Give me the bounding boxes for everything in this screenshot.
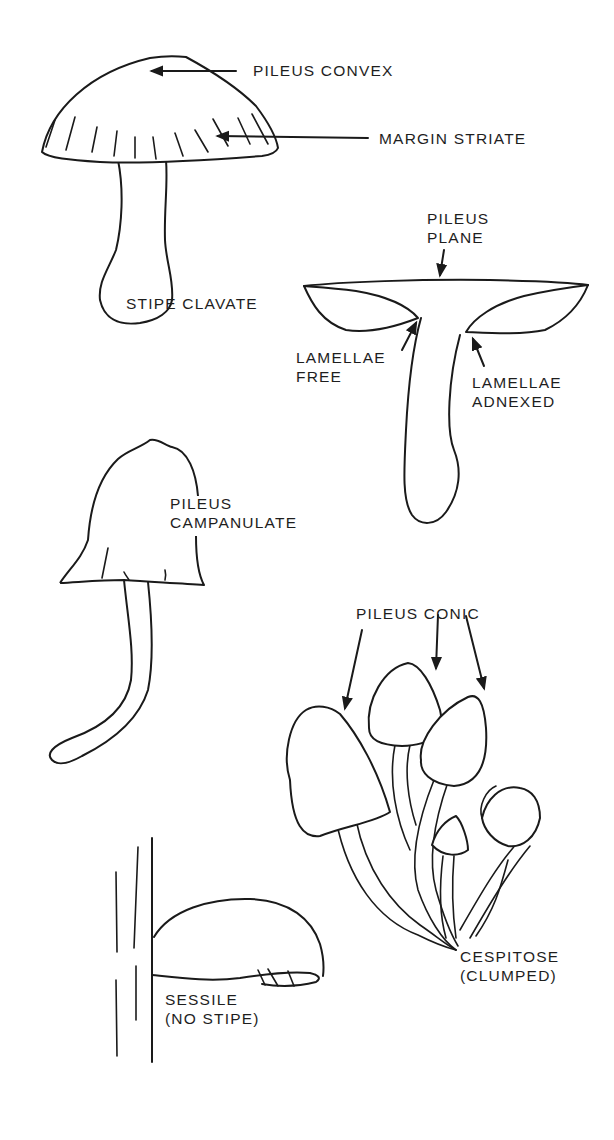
label-cespitose-line2: (CLUMPED) (460, 966, 559, 985)
arrow-pileus-plane (440, 250, 444, 275)
label-pileus-convex: PILEUS CONVEX (253, 61, 394, 80)
label-lamellae-free: LAMELLAE FREE (296, 348, 386, 386)
label-margin-striate: MARGIN STRIATE (379, 129, 526, 148)
arrow-lamellae-adnexed (473, 339, 484, 366)
arrow-conic-3 (466, 616, 484, 688)
mushroom-morphology-diagram: PILEUS CONVEX MARGIN STRIATE STIPE CLAVA… (0, 0, 614, 1140)
label-lamellae-adnexed: LAMELLAE ADNEXED (472, 373, 562, 411)
sessile-mushroom-drawing (116, 838, 324, 1062)
campanulate-mushroom-drawing (50, 440, 204, 764)
label-campanulate-line1: PILEUS (170, 494, 297, 513)
convex-mushroom-drawing (42, 56, 368, 324)
label-sessile-line2: (NO STIPE) (165, 1009, 260, 1028)
arrow-conic-1 (345, 630, 362, 708)
label-sessile-line1: SESSILE (165, 990, 260, 1009)
label-pileus-plane: PILEUS PLANE (427, 209, 489, 247)
label-lamellae-adnexed-line1: LAMELLAE (472, 373, 562, 392)
label-pileus-plane-line2: PLANE (427, 228, 489, 247)
label-stipe-clavate: STIPE CLAVATE (126, 294, 258, 313)
label-lamellae-free-line2: FREE (296, 367, 386, 386)
label-sessile: SESSILE (NO STIPE) (165, 990, 260, 1028)
label-campanulate-line2: CAMPANULATE (170, 513, 297, 532)
label-lamellae-free-line1: LAMELLAE (296, 348, 386, 367)
label-pileus-conic: PILEUS CONIC (356, 604, 480, 623)
label-cespitose-line1: CESPITOSE (460, 947, 559, 966)
conic-cespitose-drawing (287, 615, 540, 950)
label-pileus-plane-line1: PILEUS (427, 209, 489, 228)
label-lamellae-adnexed-line2: ADNEXED (472, 392, 562, 411)
label-cespitose: CESPITOSE (CLUMPED) (460, 947, 559, 985)
label-pileus-campanulate: PILEUS CAMPANULATE (170, 494, 297, 532)
